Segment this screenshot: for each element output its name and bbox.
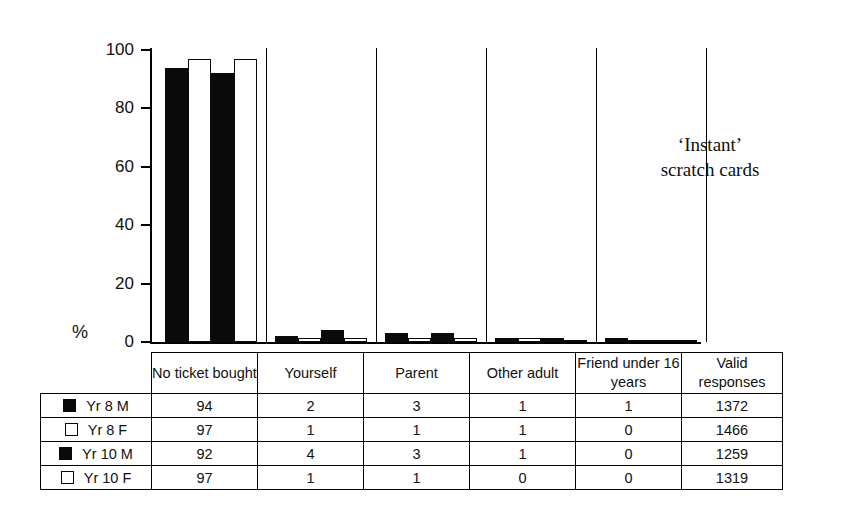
table-header-row: No ticket boughtYourselfParentOther adul… [41,353,783,394]
category-separator [266,48,267,342]
table-cell: 1 [470,418,576,442]
legend-label: Yr 10 M [82,446,133,462]
table-body: Yr 8 M9423111372Yr 8 F9711101466Yr 10 M9… [41,394,783,490]
bar [298,338,321,342]
legend-swatch-icon [65,423,78,436]
legend-cell: Yr 8 M [41,394,152,418]
y-tick-label-20: 20 [88,275,134,292]
y-tick-100 [141,49,150,51]
bar [344,338,367,342]
table-row: Yr 8 M9423111372 [41,394,783,418]
table-cell: 1 [576,394,682,418]
table-cell: 3 [364,442,470,466]
y-tick-label-0: 0 [88,333,134,350]
table-header-cell: Yourself [258,353,364,394]
bar [651,340,674,343]
bar [431,333,454,342]
bar [674,340,697,343]
table-header-cell: Other adult [470,353,576,394]
table-cell: 94 [152,394,258,418]
table-cell: 0 [576,418,682,442]
table-row: Yr 8 F9711101466 [41,418,783,442]
y-tick-label-80: 80 [88,99,134,116]
legend-header-cell [41,353,152,394]
y-axis-line [150,48,152,344]
bar [454,338,477,342]
legend-label: Yr 8 M [86,398,129,414]
bar-group [275,50,367,342]
bar [211,73,234,342]
category-separator [706,48,707,342]
data-table: No ticket boughtYourselfParentOther adul… [40,352,783,490]
bar [564,340,587,343]
plot-area: 020406080100 [150,48,810,344]
bar-group [385,50,477,342]
y-axis-unit-label: % [72,322,88,343]
table-cell: 1 [364,466,470,490]
bar [495,338,518,342]
legend-label: Yr 8 F [88,422,127,438]
y-tick-40 [141,224,150,226]
table-cell: 0 [470,466,576,490]
legend-label: Yr 10 F [84,470,132,486]
y-tick-0 [141,341,150,343]
table-cell: 1 [258,418,364,442]
bar-group [495,50,587,342]
table-header-cell: Valid responses [682,353,783,394]
y-tick-80 [141,107,150,109]
y-tick-label-40: 40 [88,216,134,233]
category-separator [596,48,597,342]
bar [234,59,257,342]
table-header-cell: Parent [364,353,470,394]
table-cell: 1372 [682,394,783,418]
table-cell: 1319 [682,466,783,490]
y-tick-label-100: 100 [88,41,134,58]
table-cell: 97 [152,466,258,490]
table-cell: 0 [576,466,682,490]
table-row: Yr 10 F9711001319 [41,466,783,490]
table-cell: 2 [258,394,364,418]
bar [188,59,211,342]
category-separator [486,48,487,342]
y-tick-label-60: 60 [88,158,134,175]
table-cell: 1 [470,442,576,466]
bar [628,340,651,343]
bar-group [165,50,257,342]
table-cell: 1466 [682,418,783,442]
x-axis-line [150,342,701,344]
y-tick-20 [141,283,150,285]
bar [385,333,408,342]
bar [321,330,344,342]
legend-cell: Yr 8 F [41,418,152,442]
table-header-cell: No ticket bought [152,353,258,394]
bar [165,68,188,342]
legend-swatch-icon [61,471,74,484]
bar [541,338,564,342]
table-cell: 3 [364,394,470,418]
category-separator [376,48,377,342]
legend-swatch-icon [63,399,76,412]
legend-cell: Yr 10 F [41,466,152,490]
table-cell: 4 [258,442,364,466]
bar [275,336,298,342]
table-cell: 1 [364,418,470,442]
y-tick-60 [141,166,150,168]
table-cell: 92 [152,442,258,466]
table-header-cell: Friend under 16 years [576,353,682,394]
chart-figure: ‘Instant’ scratch cards % 020406080100 N… [0,0,851,518]
table-cell: 97 [152,418,258,442]
table-cell: 1259 [682,442,783,466]
bar [518,338,541,342]
table-row: Yr 10 M9243101259 [41,442,783,466]
table-cell: 1 [470,394,576,418]
table-header: No ticket boughtYourselfParentOther adul… [41,353,783,394]
legend-cell: Yr 10 M [41,442,152,466]
bar [605,338,628,342]
bar-group [605,50,697,342]
bar [408,338,431,342]
legend-swatch-icon [59,447,72,460]
table-cell: 1 [258,466,364,490]
table-cell: 0 [576,442,682,466]
